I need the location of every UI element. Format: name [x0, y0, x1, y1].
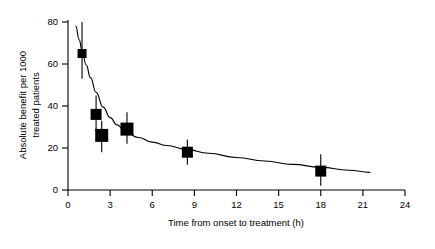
y-axis-title-line-2: treated patients: [30, 72, 41, 138]
x-tick-label: 12: [231, 199, 242, 210]
absolute-benefit-vs-time-chart: 020406080 03691215182124 Time from onset…: [0, 0, 435, 249]
x-tick-label: 24: [400, 199, 411, 210]
x-tick-label: 15: [273, 199, 284, 210]
x-tick-label: 3: [107, 199, 112, 210]
y-axis-title-line-1: Absolute benefit per 1000: [17, 51, 28, 159]
y-tick-label: 60: [47, 58, 58, 69]
x-tick-label: 6: [150, 199, 155, 210]
data-point-marker: [315, 166, 326, 177]
x-axis-title: Time from onset to treatment (h): [168, 217, 304, 228]
y-tick-label: 80: [47, 16, 58, 27]
y-tick-label: 40: [47, 100, 58, 111]
data-point-marker: [91, 109, 102, 120]
x-tick-label: 21: [358, 199, 369, 210]
x-tick-label: 18: [315, 199, 326, 210]
figure-container: 020406080 03691215182124 Time from onset…: [0, 0, 435, 249]
data-point-marker: [78, 49, 87, 58]
data-point-marker: [95, 129, 108, 142]
x-tick-label: 0: [65, 199, 70, 210]
data-point-marker: [120, 123, 133, 136]
x-tick-label: 9: [192, 199, 197, 210]
chart-background: [0, 0, 435, 249]
y-tick-label: 0: [53, 184, 58, 195]
y-tick-label: 20: [47, 142, 58, 153]
data-point-marker: [182, 147, 193, 158]
